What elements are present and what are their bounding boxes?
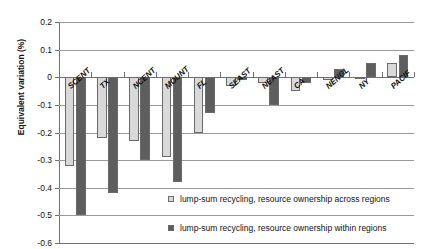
dark-gray-swatch-icon xyxy=(168,225,174,231)
y-tick-label: -0.4 xyxy=(37,183,52,193)
y-tick-label: 0.1 xyxy=(40,45,52,55)
legend-label-within: lump-sum recycling, resource ownership w… xyxy=(180,223,386,233)
bar xyxy=(387,63,397,77)
bar-chart: Equivalent variation (%) 0.20.10-0.1-0.2… xyxy=(0,0,432,249)
y-tick xyxy=(55,243,59,244)
y-axis-title: Equivalent variation (%) xyxy=(16,22,26,152)
y-tick-label: -0.3 xyxy=(37,155,52,165)
bar xyxy=(76,77,86,215)
y-tick-label: 0.2 xyxy=(40,17,52,27)
y-tick-label: -0.1 xyxy=(37,100,52,110)
legend-item-within: lump-sum recycling, resource ownership w… xyxy=(168,219,418,236)
y-tick-label: -0.2 xyxy=(37,128,52,138)
bar xyxy=(65,77,75,165)
y-tick-label: 0 xyxy=(47,72,52,82)
y-tick-label: -0.5 xyxy=(37,210,52,220)
y-tick-label: -0.6 xyxy=(37,238,52,248)
gridline xyxy=(59,243,414,244)
light-gray-swatch-icon xyxy=(168,196,174,202)
legend-item-across: lump-sum recycling, resource ownership a… xyxy=(168,190,418,207)
bar xyxy=(173,77,183,182)
legend-label-across: lump-sum recycling, resource ownership a… xyxy=(180,194,390,204)
bar xyxy=(366,63,376,77)
x-tick xyxy=(414,72,415,77)
chart-legend: lump-sum recycling, resource ownership a… xyxy=(168,190,418,236)
bar xyxy=(108,77,118,193)
bar xyxy=(140,77,150,160)
